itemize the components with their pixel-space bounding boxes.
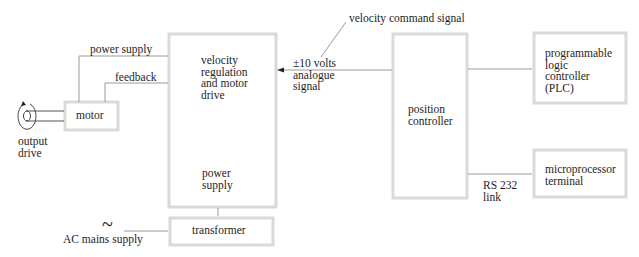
plc-label: programmable logic controller (PLC) (545, 48, 612, 94)
arrow-head-icon (277, 68, 284, 73)
output-drive-label: output drive (18, 136, 47, 159)
feedback-wire (105, 83, 168, 102)
ac-symbol: ~ (102, 214, 113, 234)
feedback-label: feedback (115, 72, 157, 84)
output-shaft-icon (18, 101, 64, 129)
microprocessor-label: microprocessor terminal (545, 164, 616, 187)
rs232-label: RS 232 link (483, 180, 517, 203)
power-supply-block-label: power supply (202, 168, 233, 191)
motor-label: motor (76, 110, 103, 122)
velocity-drive-label: velocity regulation and motor drive (201, 55, 248, 101)
analogue-signal-label: ±10 volts analogue signal (293, 58, 336, 93)
velocity-command-label: velocity command signal (349, 13, 465, 25)
power-supply-label: power supply (90, 44, 152, 56)
ac-mains-label: AC mains supply (63, 234, 143, 246)
diagram-canvas (0, 0, 639, 257)
velocity-command-leader (321, 22, 346, 57)
position-controller-label: position controller (408, 104, 482, 127)
transformer-label: transformer (192, 225, 246, 237)
